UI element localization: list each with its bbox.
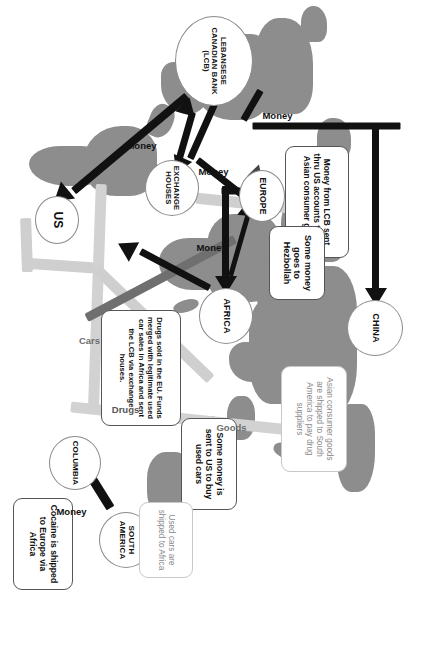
money-arrow-europe-to-africa-trunk [222, 186, 229, 282]
money-arrow-lcb-to-china-horizontal [372, 126, 379, 292]
landmass-alaska [301, 6, 327, 42]
callout-asian-goods: Asian consumer goods are shipped to Sout… [281, 366, 347, 472]
edge-label-money-lcb-china: Money [262, 110, 292, 121]
callout-cocaine-text: Cocaine is shipped to Europe via Africa [27, 504, 58, 584]
callout-hezbollah-text: Some money goes to Hezbollah [281, 232, 314, 294]
node-europe[interactable]: EUROPE [239, 170, 285, 222]
edge-label-money-exchange-africa: Money [196, 242, 226, 253]
edge-label-text: Money [198, 166, 228, 177]
node-south-america-label: SOUTH AMERICA [117, 517, 135, 563]
edge-label-text: Money [126, 140, 156, 151]
node-exchange-houses-label: EXCHANGE HOUSES [164, 165, 181, 211]
flow-ribbon-cars-3 [20, 218, 33, 272]
callout-hezbollah: Some money goes to Hezbollah [269, 226, 325, 300]
edge-label-text: Goods [216, 422, 246, 433]
callout-used-cars-us-text: Some money is sent to US to buy used car… [193, 424, 224, 504]
node-europe-label: EUROPE [257, 177, 266, 214]
node-us-label: US [50, 211, 63, 228]
edge-label-money-lcb-exchange: Money [198, 166, 228, 177]
node-lcb-label: LEBANSESE CANADIAN BANK (LCB) [201, 25, 226, 97]
edge-label-drugs: Drugs [112, 404, 139, 415]
diagram-page: CHINA EUROPE LEBANSESE CANADIAN BANK (LC… [0, 0, 431, 653]
node-lcb[interactable]: LEBANSESE CANADIAN BANK (LCB) [175, 16, 253, 106]
node-columbia[interactable]: COLUMBIA [49, 436, 101, 490]
node-china[interactable]: CHINA [347, 300, 403, 356]
node-africa-label: AFRICA [221, 298, 231, 333]
callout-used-cars-africa-text: Used cars are shipped to Africa [156, 508, 176, 572]
callout-asian-goods-text: Asian consumer goods are shipped to Sout… [294, 372, 334, 466]
node-exchange-houses[interactable]: EXCHANGE HOUSES [145, 160, 199, 216]
edge-label-text: Money [56, 506, 86, 517]
node-columbia-label: COLUMBIA [71, 441, 80, 486]
callout-used-cars-africa: Used cars are shipped to Africa [139, 502, 193, 578]
landmass-india [229, 342, 269, 382]
node-us[interactable]: US [35, 196, 79, 244]
edge-label-text: Cars [79, 335, 100, 346]
edge-label-text: Money [262, 110, 292, 121]
node-china-label: CHINA [370, 313, 380, 343]
edge-label-text: Money [196, 242, 226, 253]
edge-label-cars: Cars [79, 335, 100, 346]
diagram-canvas: CHINA EUROPE LEBANSESE CANADIAN BANK (LC… [0, 0, 431, 653]
edge-label-money-lcb-us: Money [126, 140, 156, 151]
edge-label-goods: Goods [216, 422, 246, 433]
edge-label-money-sa-columbia: Money [56, 506, 86, 517]
node-africa[interactable]: AFRICA [199, 288, 253, 344]
edge-label-text: Drugs [112, 404, 139, 415]
